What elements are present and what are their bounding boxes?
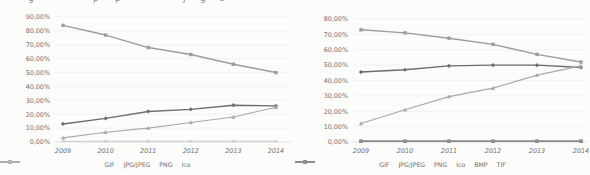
legend-item-Ico: Ico: [182, 161, 191, 168]
x-tick-label: 2013: [529, 147, 545, 155]
caption-fragment: p: [115, 0, 121, 3]
marker-diamond: [535, 63, 539, 67]
legend-label: PNG: [434, 161, 447, 168]
legend-label: BMP: [474, 161, 487, 168]
marker-diamond: [491, 63, 495, 67]
x-tick-label: 2014: [573, 147, 589, 155]
legend-right: GIFJPG/JPEGPNGIcoBMPTIF: [295, 158, 590, 170]
y-tick-label: 80,00%: [324, 15, 348, 23]
y-tick-label: 20,00%: [324, 108, 348, 116]
marker-circle: [447, 140, 450, 143]
y-tick-label: 0,00%: [30, 138, 50, 146]
x-tick-label: 2011: [140, 147, 156, 155]
marker-diamond: [447, 64, 451, 68]
y-tick-label: 70,00%: [324, 31, 348, 39]
marker-diamond: [61, 122, 65, 126]
y-tick-label: 80,00%: [26, 27, 50, 35]
marker-diamond: [231, 103, 235, 107]
legend-label: Ico: [182, 161, 191, 168]
x-tick-label: 2011: [441, 147, 457, 155]
x-tick-label: 2013: [225, 147, 241, 155]
x-tick-label: 2010: [97, 147, 113, 155]
x-tick-label: 2009: [353, 147, 369, 155]
usage-chart-left: 0,00%10,00%20,00%30,00%40,00%50,00%60,00…: [0, 6, 295, 156]
y-tick-label: 30,00%: [26, 97, 50, 105]
marker-diamond: [146, 109, 150, 113]
x-tick-label: 2010: [397, 147, 413, 155]
marker-diamond: [189, 107, 193, 111]
marker-square: [535, 53, 538, 56]
chart-right: 0,00%10,00%20,00%30,00%40,00%50,00%60,00…: [295, 6, 590, 175]
legend-item-TIF: TIF: [497, 161, 506, 168]
chart-left: 0,00%10,00%20,00%30,00%40,00%50,00%60,00…: [0, 6, 295, 175]
marker-square: [403, 31, 406, 34]
marker-square: [491, 43, 494, 46]
caption-fragment: s: [220, 0, 225, 3]
legend-label: PNG: [159, 161, 172, 168]
y-tick-label: 40,00%: [26, 83, 50, 91]
legend-label: Ico: [456, 161, 465, 168]
marker-circle: [303, 160, 306, 163]
y-tick-label: 10,00%: [324, 123, 348, 131]
marker-circle: [535, 140, 538, 143]
legend-label: GIF: [104, 161, 114, 168]
marker-diamond: [359, 70, 363, 74]
marker-square: [359, 28, 362, 31]
y-tick-label: 10,00%: [26, 124, 50, 132]
y-tick-label: 60,00%: [26, 55, 50, 63]
legend-left: GIFJPG/JPEGPNGIco: [0, 158, 295, 170]
marker-square: [104, 33, 107, 36]
legend-label: GIF: [379, 161, 389, 168]
marker-square: [189, 53, 192, 56]
y-tick-label: 70,00%: [26, 41, 50, 49]
caption-fragment: g: [28, 0, 34, 3]
marker-square: [274, 71, 277, 74]
legend-item-GIF: GIF: [104, 161, 114, 168]
legend-item-PNG: PNG: [159, 161, 172, 168]
y-tick-label: 0,00%: [328, 138, 348, 146]
series-line-PNG: [63, 107, 276, 138]
legend-item-PNG: PNG: [434, 161, 447, 168]
marker-circle: [491, 140, 494, 143]
marker-diamond: [104, 116, 108, 120]
x-tick-label: 2014: [268, 147, 284, 155]
legend-label: JPG/JPEG: [124, 161, 151, 168]
y-tick-label: 40,00%: [324, 77, 348, 85]
marker-diamond: [403, 68, 407, 72]
caption-fragment: j: [183, 0, 186, 3]
legend-item-Ico: Ico: [456, 161, 465, 168]
legend-item-JPG/JPEG: JPG/JPEG: [124, 161, 151, 168]
series-line-JPG/JPEG: [361, 65, 581, 72]
legend-item-JPG/JPEG: JPG/JPEG: [398, 161, 425, 168]
legend-item-BMP: BMP: [474, 161, 487, 168]
marker-circle: [579, 140, 582, 143]
marker-square: [147, 46, 150, 49]
legend-key-icon: [0, 158, 20, 166]
caption-fragment: g: [200, 0, 206, 3]
y-tick-label: 50,00%: [26, 69, 50, 77]
y-tick-label: 30,00%: [324, 92, 348, 100]
marker-square: [232, 63, 235, 66]
marker-circle: [403, 140, 406, 143]
y-tick-label: 60,00%: [324, 46, 348, 54]
legend-key-icon: [295, 158, 315, 166]
series-line-GIF: [63, 25, 276, 72]
legend-label: TIF: [497, 161, 506, 168]
marker-square: [579, 60, 582, 63]
x-tick-label: 2009: [55, 147, 71, 155]
marker-square: [447, 37, 450, 40]
y-tick-label: 50,00%: [324, 61, 348, 69]
x-tick-label: 2012: [183, 147, 199, 155]
y-tick-label: 20,00%: [26, 111, 50, 119]
caption-fragment: p: [93, 0, 99, 3]
cropped-caption: gppjgs: [0, 0, 590, 5]
legend-item-GIF: GIF: [379, 161, 389, 168]
x-tick-label: 2012: [485, 147, 501, 155]
y-tick-label: 90,00%: [26, 13, 50, 21]
marker-circle: [359, 140, 362, 143]
usage-chart-right: 0,00%10,00%20,00%30,00%40,00%50,00%60,00…: [295, 6, 590, 156]
marker-square: [61, 24, 64, 27]
legend-label: JPG/JPEG: [398, 161, 425, 168]
series-line-PNG: [361, 66, 581, 124]
scanned-figure: gppjgs 0,00%10,00%20,00%30,00%40,00%50,0…: [0, 0, 590, 175]
